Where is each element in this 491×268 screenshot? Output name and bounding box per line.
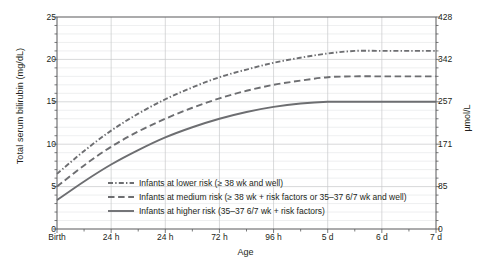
x-tick-2: 24 h [135, 232, 195, 242]
x-tick-6: 6 d [352, 232, 412, 242]
y-axis-ticks-left: 0510152025 [32, 0, 56, 230]
legend-line-swatch-dashed [108, 192, 134, 202]
y-axis-title-left: Total serum bilirubin (mg/dL) [13, 0, 27, 216]
x-tick-0: Birth [27, 232, 87, 242]
y-tick-right-2: 171 [438, 140, 466, 149]
legend-item-2: Infants at higher risk (35–37 6/7 wk + r… [108, 204, 408, 218]
x-tick-4: 96 h [244, 232, 304, 242]
y-tick-right-1: 85 [438, 182, 466, 191]
x-axis-title: Age [0, 247, 491, 257]
y-tick-left-3: 15 [32, 97, 56, 106]
legend-label-1: Infants at medium risk (≥ 38 wk + risk f… [139, 192, 407, 202]
y-tick-right-4: 342 [438, 55, 466, 64]
legend-line-swatch-dash-dot [108, 178, 134, 188]
x-tick-7: 7 d [406, 232, 466, 242]
y-tick-left-1: 5 [32, 182, 56, 191]
x-tick-5: 5 d [298, 232, 358, 242]
x-tick-1: 24 h [81, 232, 141, 242]
plot-area [0, 0, 491, 268]
y-tick-right-5: 428 [438, 13, 466, 22]
legend-label-2: Infants at higher risk (35–37 6/7 wk + r… [139, 206, 325, 216]
x-tick-3: 72 h [189, 232, 249, 242]
y-tick-right-3: 257 [438, 97, 466, 106]
legend-line-swatch-solid [108, 206, 134, 216]
chart-legend: Infants at lower risk (≥ 38 wk and well)… [108, 176, 408, 218]
legend-item-1: Infants at medium risk (≥ 38 wk + risk f… [108, 190, 408, 204]
x-axis-ticks: Birth24 h24 h72 h96 h5 d6 d7 d [0, 232, 491, 246]
y-tick-left-2: 10 [32, 140, 56, 149]
legend-item-0: Infants at lower risk (≥ 38 wk and well) [108, 176, 408, 190]
legend-label-0: Infants at lower risk (≥ 38 wk and well) [139, 178, 283, 188]
y-axis-ticks-right: 085171257342428 [438, 0, 466, 230]
y-tick-left-5: 25 [32, 13, 56, 22]
bilirubin-phototherapy-chart: Total serum bilirubin (mg/dL) µmol/L Age… [0, 0, 491, 268]
y-tick-left-4: 20 [32, 55, 56, 64]
